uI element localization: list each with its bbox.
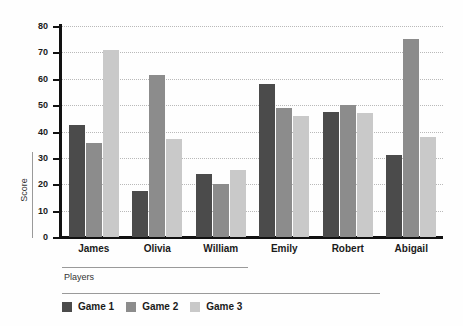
x-axis-label: James (62, 243, 126, 254)
bar[interactable] (132, 191, 148, 237)
y-tick-mark (53, 52, 59, 54)
y-tick-mark (53, 158, 59, 160)
bar[interactable] (230, 170, 246, 237)
bar-chart: 01020304050607080 JamesOliviaWilliamEmil… (0, 0, 463, 326)
bar[interactable] (340, 105, 356, 237)
bar[interactable] (196, 174, 212, 237)
x-axis-label: Emily (253, 243, 317, 254)
bar[interactable] (357, 113, 373, 237)
legend-swatch-icon (190, 302, 200, 312)
y-tick-mark (53, 105, 59, 107)
x-axis-label: Robert (316, 243, 380, 254)
bar-group (126, 26, 190, 237)
legend-separator (62, 293, 380, 294)
x-axis-separator (62, 267, 248, 268)
x-axis-label: William (189, 243, 253, 254)
bar[interactable] (293, 116, 309, 237)
y-axis-separator (32, 152, 33, 238)
y-tick-label: 20 (38, 179, 48, 189)
y-tick-label: 10 (38, 206, 48, 216)
bar[interactable] (149, 75, 165, 237)
legend-item[interactable]: Game 1 (62, 301, 114, 312)
bar[interactable] (420, 137, 436, 237)
bar-group (189, 26, 253, 237)
bar[interactable] (213, 184, 229, 237)
x-axis-label: Abigail (380, 243, 444, 254)
bar[interactable] (323, 112, 339, 237)
bar-group (253, 26, 317, 237)
bar[interactable] (86, 143, 102, 237)
y-tick-label: 70 (38, 47, 48, 57)
y-tick-label: 80 (38, 21, 48, 31)
bar[interactable] (69, 125, 85, 237)
y-tick-mark (53, 184, 59, 186)
y-tick-mark (53, 211, 59, 213)
y-tick-mark (53, 26, 59, 28)
legend-item[interactable]: Game 2 (126, 301, 178, 312)
x-axis-title: Players (64, 272, 94, 282)
legend-swatch-icon (126, 302, 136, 312)
legend-item[interactable]: Game 3 (190, 301, 242, 312)
bar[interactable] (259, 84, 275, 237)
bar-groups (62, 26, 443, 237)
bar[interactable] (403, 39, 419, 237)
y-axis-title: Score (19, 178, 29, 202)
legend-swatch-icon (62, 302, 72, 312)
bar-group (316, 26, 380, 237)
legend-label: Game 1 (78, 301, 114, 312)
y-tick-mark (53, 79, 59, 81)
legend-label: Game 2 (142, 301, 178, 312)
x-axis-labels: JamesOliviaWilliamEmilyRobertAbigail (62, 243, 443, 254)
bar[interactable] (386, 155, 402, 237)
y-tick-mark (53, 237, 59, 239)
bar[interactable] (166, 139, 182, 237)
bar[interactable] (103, 50, 119, 237)
y-tick-mark (53, 132, 59, 134)
y-tick-label: 60 (38, 74, 48, 84)
x-axis-label: Olivia (126, 243, 190, 254)
y-tick-label: 50 (38, 100, 48, 110)
bar[interactable] (276, 108, 292, 237)
chart-legend: Game 1Game 2Game 3 (62, 301, 242, 312)
legend-label: Game 3 (206, 301, 242, 312)
y-tick-label: 0 (43, 232, 48, 242)
y-tick-label: 40 (38, 127, 48, 137)
y-tick-label: 30 (38, 153, 48, 163)
bar-group (62, 26, 126, 237)
y-axis-title-wrap: Score (18, 150, 30, 230)
bar-group (380, 26, 444, 237)
